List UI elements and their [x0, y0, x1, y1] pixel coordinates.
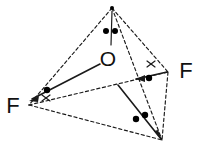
diagram-canvas: O F F: [0, 0, 201, 153]
right-bond-cross-icon: [147, 61, 155, 67]
molecular-geometry-diagram: O F F: [0, 0, 201, 153]
left-bond-cross-icon: [42, 95, 50, 101]
central-atom-label: O: [100, 47, 116, 70]
bond-arrowheads: [29, 75, 162, 140]
left-fluorine-label: F: [6, 93, 19, 118]
bottom-pair-dot-a-icon: [133, 116, 139, 122]
lone-pair-top-right-dot-icon: [112, 28, 118, 34]
edge-left-to-bottom-right: [29, 105, 162, 140]
edge-right-to-bottom-right: [162, 72, 168, 140]
arrowhead-left-icon: [29, 96, 39, 102]
edge-apex-to-right: [112, 8, 168, 72]
bond-cross-marks: [42, 61, 155, 101]
tetrahedron-dashed-edges: [29, 8, 168, 140]
solid-bond-lines: [32, 11, 167, 139]
right-fluorine-label: F: [179, 58, 192, 83]
right-fluorine-electron-dot-icon: [146, 75, 152, 81]
lone-pair-top-left-dot-icon: [103, 28, 109, 34]
lone-pair-stem-icon: [111, 11, 112, 45]
bottom-pair-dot-b-icon: [142, 112, 148, 118]
apex-dot-icon: [110, 6, 114, 10]
electron-dots: [44, 6, 152, 122]
left-fluorine-electron-dot-icon: [44, 87, 50, 93]
bond-line-to-left-fluorine: [32, 64, 100, 99]
